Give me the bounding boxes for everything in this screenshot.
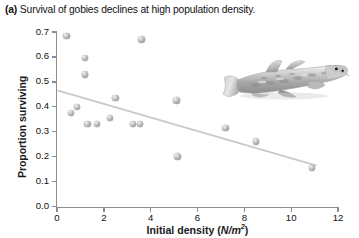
figure-panel-a: (a) Survival of gobies declines at high … [0,0,359,238]
data-point [94,121,100,127]
x-tick-mark [56,207,57,212]
data-point [82,71,88,77]
data-point [63,33,69,39]
data-point [107,115,113,121]
data-point [82,55,88,61]
x-tick-label: 6 [187,212,209,223]
x-tick-mark [150,207,151,212]
y-tick-label: 0.5 [23,75,49,86]
data-point [112,95,118,101]
x-tick-mark [103,207,104,212]
panel-label: (a) [5,4,17,15]
caption-text: Survival of gobies declines at high popu… [20,4,255,15]
data-point [68,110,74,116]
data-point [222,125,228,131]
data-point [84,121,90,127]
x-tick-label: 10 [280,212,302,223]
data-point [74,104,80,110]
x-axis-title: Initial density (N/m2) [57,222,338,236]
x-axis-title-main: Initial density ( [147,224,221,236]
x-tick-mark [337,207,338,212]
x-tick-label: 0 [46,212,68,223]
y-tick-label: 0.7 [23,26,49,37]
x-tick-label: 8 [233,212,255,223]
figure-caption: (a) Survival of gobies declines at high … [5,3,255,16]
x-tick-label: 4 [140,212,162,223]
y-tick-mark [52,181,57,182]
x-axis-title-close: ) [245,224,249,236]
data-point [138,36,144,42]
y-tick-label: 0.3 [23,125,49,136]
y-tick-mark [52,106,57,107]
trend-line [0,0,359,238]
data-point [130,121,136,127]
data-point [137,121,143,127]
y-tick-mark [52,56,57,57]
x-tick-label: 12 [327,212,349,223]
data-point [253,138,259,144]
y-tick-mark [52,131,57,132]
y-tick-mark [52,31,57,32]
data-point [174,153,180,159]
data-point [309,165,315,171]
goby-fish-photo [222,52,350,114]
x-tick-mark [197,207,198,212]
data-point [173,97,179,103]
y-tick-label: 0.2 [23,150,49,161]
x-tick-label: 2 [93,212,115,223]
x-axis-title-units: N/m [221,224,241,236]
y-tick-mark [52,156,57,157]
y-tick-label: 0.1 [23,175,49,186]
x-tick-mark [291,207,292,212]
y-tick-label: 0.4 [23,100,49,111]
y-tick-mark [52,81,57,82]
x-tick-mark [244,207,245,212]
y-tick-label: 0.0 [23,200,49,211]
y-tick-label: 0.6 [23,50,49,61]
